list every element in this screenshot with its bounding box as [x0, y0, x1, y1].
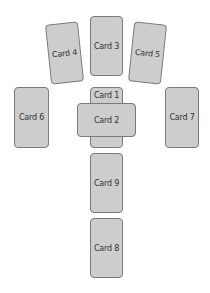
card-label: Card 2: [94, 116, 119, 125]
card-4: Card 4: [45, 21, 84, 84]
card-7: Card 7: [165, 87, 199, 148]
card-8: Card 8: [90, 218, 123, 278]
card-6: Card 6: [14, 87, 49, 148]
card-label: Card 3: [94, 42, 119, 51]
card-label: Card 4: [52, 47, 78, 59]
card-label: Card 5: [135, 47, 161, 59]
card-2: Card 2: [77, 103, 136, 137]
card-label: Card 1: [94, 91, 119, 100]
card-9: Card 9: [90, 153, 123, 213]
card-label: Card 9: [94, 179, 119, 188]
card-5: Card 5: [128, 21, 167, 84]
card-label: Card 8: [94, 244, 119, 253]
card-3: Card 3: [90, 16, 123, 76]
card-label: Card 7: [169, 113, 194, 122]
card-label: Card 6: [19, 113, 44, 122]
